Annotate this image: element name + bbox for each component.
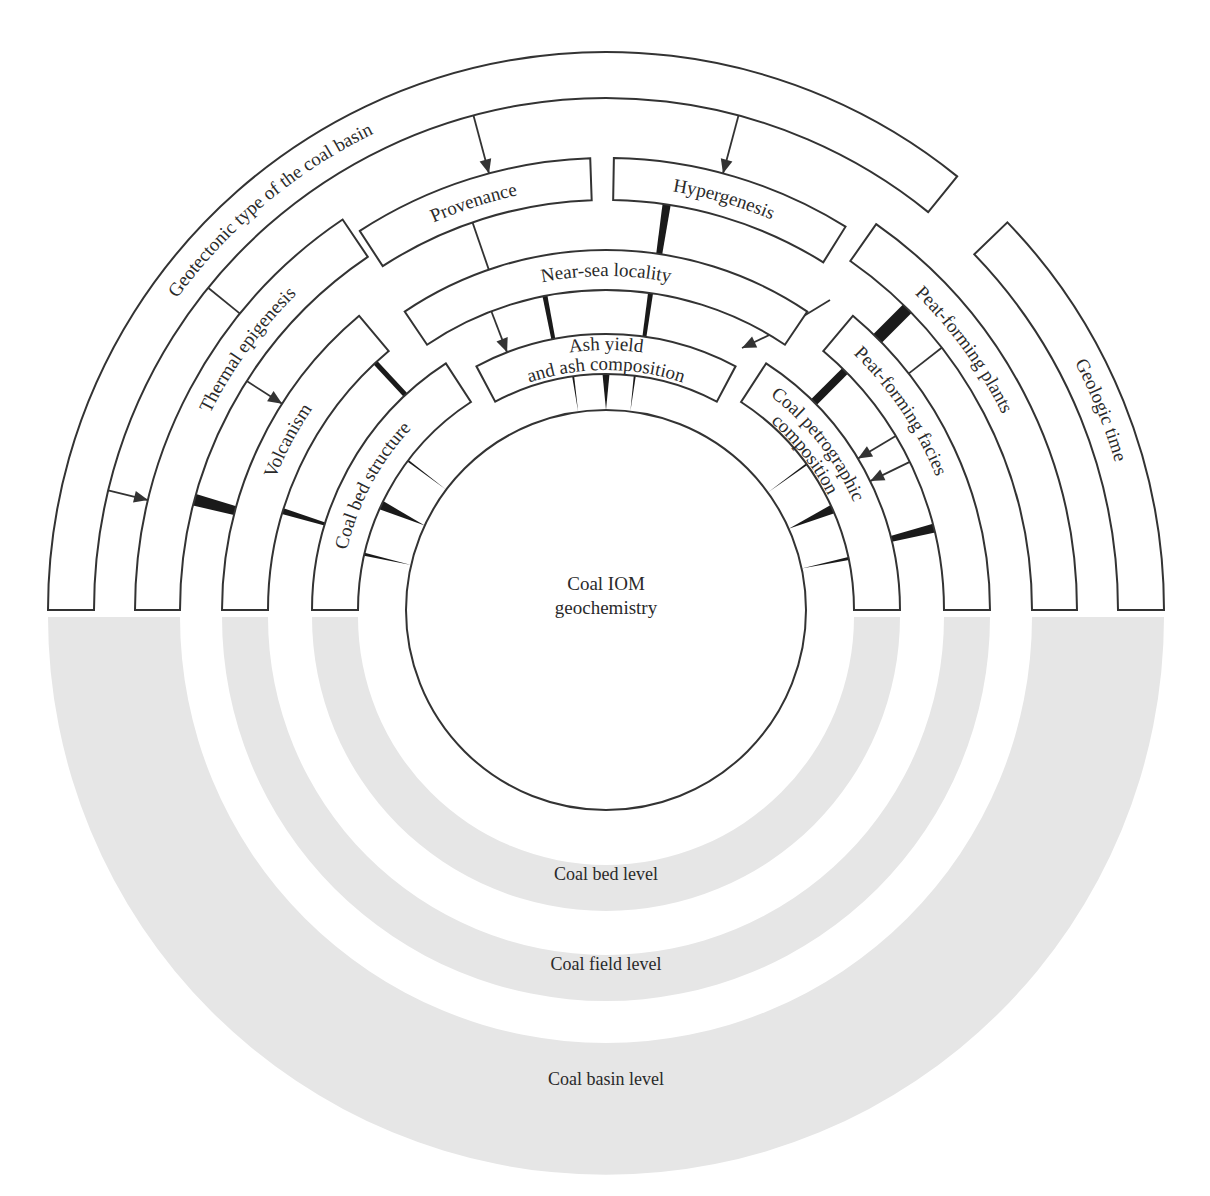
coal-bed-level-label: Coal bed level <box>554 864 658 884</box>
arrow-head-icon <box>858 446 873 458</box>
coal-field-level-label: Coal field level <box>551 954 662 974</box>
arrow-head-icon <box>133 491 148 503</box>
influence-wedge <box>873 305 911 343</box>
core-label-line1: Coal IOM <box>567 573 645 594</box>
influence-wedge <box>630 376 635 412</box>
provenance-segment <box>360 158 592 266</box>
core-label-line2: geochemistry <box>555 597 658 618</box>
core-circle-group: Coal IOM geochemistry <box>406 410 806 810</box>
thermal-epigenesis-label: Thermal epigenesis <box>195 282 300 415</box>
influence-wedge <box>768 463 807 492</box>
influence-wedge <box>379 501 424 525</box>
influence-wedge <box>642 293 653 337</box>
peat-forming-plants-label: Peat-forming plants <box>912 281 1018 416</box>
connector-line <box>208 288 240 314</box>
hypergenesis-segment <box>613 158 845 262</box>
peat-forming-facies-label: Peat-forming facies <box>850 342 951 479</box>
connector-line <box>909 348 942 374</box>
influence-wedge <box>802 557 849 568</box>
coal-basin-level-label: Coal basin level <box>548 1069 664 1089</box>
arrow-head-icon <box>480 158 492 173</box>
influence-wedge <box>603 374 610 410</box>
factor-diagram: Coal basin levelCoal field levelCoal bed… <box>0 0 1210 1196</box>
arrow-head-icon <box>721 158 733 173</box>
arrow-head-icon <box>496 337 507 352</box>
influence-wedge <box>891 524 936 542</box>
influence-wedge <box>282 508 325 525</box>
arrow-head-icon <box>267 391 282 404</box>
influence-wedge <box>374 361 408 397</box>
influence-wedge <box>364 553 411 565</box>
influence-wedge <box>542 295 555 339</box>
influence-wedge <box>193 494 236 515</box>
influence-wedge <box>789 505 835 529</box>
diagram-canvas: Coal basin levelCoal field levelCoal bed… <box>0 0 1210 1196</box>
influence-wedge <box>407 460 446 490</box>
connector-line <box>473 222 489 269</box>
influence-wedge <box>811 368 848 405</box>
influence-wedge <box>572 376 578 412</box>
